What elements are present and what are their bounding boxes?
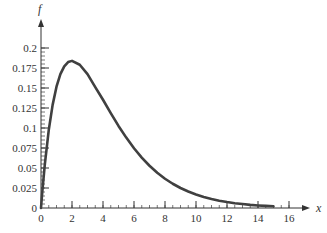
y-tick-label: 0.1: [23, 122, 37, 134]
x-tick-label: 0: [38, 212, 44, 224]
x-tick-label: 12: [222, 212, 233, 224]
x-axis-label: x: [315, 201, 322, 215]
y-tick-label: 0.175: [12, 62, 37, 74]
y-tick-label: 0.075: [12, 142, 37, 154]
y-tick-label: 0: [32, 202, 38, 214]
y-axis-arrow-icon: [38, 19, 44, 27]
y-tick-label: 0.2: [23, 42, 37, 54]
y-tick-label: 0.025: [12, 182, 37, 194]
y-tick-label: 0.05: [18, 162, 38, 174]
x-axis-arrow-icon: [302, 205, 310, 211]
x-tick-label: 14: [253, 212, 265, 224]
major-ticks: [41, 48, 289, 208]
tick-labels: 024681012141600.0250.050.0750.10.1250.15…: [12, 42, 295, 224]
x-tick-label: 2: [69, 212, 75, 224]
x-tick-label: 8: [162, 212, 168, 224]
x-tick-label: 4: [100, 212, 106, 224]
x-tick-label: 6: [131, 212, 137, 224]
y-tick-label: 0.125: [12, 102, 37, 114]
y-tick-label: 0.15: [18, 82, 38, 94]
density-curve: [41, 61, 274, 208]
x-tick-label: 10: [191, 212, 203, 224]
y-axis-label: f: [38, 2, 43, 16]
chart: 024681012141600.0250.050.0750.10.1250.15…: [0, 0, 327, 233]
x-tick-label: 16: [284, 212, 296, 224]
